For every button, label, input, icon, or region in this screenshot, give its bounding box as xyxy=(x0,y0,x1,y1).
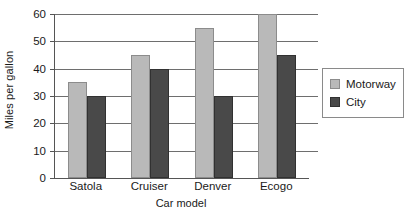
x-axis-tick-label: Cruiser xyxy=(131,180,168,192)
bar-city-satola xyxy=(87,96,106,178)
y-axis-tick-labels: 0102030405060 xyxy=(18,0,50,192)
bar-motorway-denver xyxy=(195,28,214,178)
y-axis-tick-label: 0 xyxy=(40,172,46,184)
x-axis-title: Car model xyxy=(54,197,308,209)
bar-city-cruiser xyxy=(150,69,169,178)
y-axis-tick-label: 40 xyxy=(33,63,46,75)
y-axis-tick-label: 20 xyxy=(33,117,46,129)
plot-area xyxy=(54,14,309,179)
legend-label: Motorway xyxy=(346,78,396,90)
x-axis-tick-label: Satola xyxy=(69,180,102,192)
y-axis-tick-label: 60 xyxy=(33,8,46,20)
bar-group-container xyxy=(55,14,309,178)
right-edge-tick-mark xyxy=(309,69,318,70)
chart-legend: MotorwayCity xyxy=(322,68,404,118)
y-axis-title-text: Miles per gallon xyxy=(3,51,15,130)
x-axis-tick-labels: SatolaCruiserDenverEcogo xyxy=(54,180,308,196)
bar-motorway-satola xyxy=(68,82,87,178)
right-edge-tick-mark xyxy=(309,41,318,42)
y-axis-tick-label: 50 xyxy=(33,35,46,47)
right-edge-tick-mark xyxy=(309,14,318,15)
legend-swatch-city xyxy=(330,97,340,107)
x-axis-tick-label: Denver xyxy=(194,180,231,192)
y-axis-tick-label: 30 xyxy=(33,90,46,102)
bar-city-ecogo xyxy=(277,55,296,178)
x-axis-tick-label: Ecogo xyxy=(260,180,293,192)
legend-label: City xyxy=(346,96,366,108)
right-edge-tick-mark xyxy=(309,96,318,97)
y-axis-tick-mark xyxy=(50,178,55,179)
y-axis-tick-label: 10 xyxy=(33,145,46,157)
legend-item-motorway: Motorway xyxy=(330,75,397,93)
right-edge-tick-mark xyxy=(309,123,318,124)
bar-motorway-ecogo xyxy=(258,14,277,178)
bar-city-denver xyxy=(214,96,233,178)
legend-swatch-motorway xyxy=(330,79,340,89)
bar-motorway-cruiser xyxy=(131,55,150,178)
legend-item-city: City xyxy=(330,93,397,111)
y-axis-title: Miles per gallon xyxy=(0,0,18,180)
bar-chart-figure: Miles per gallon 0102030405060 SatolaCru… xyxy=(0,0,409,215)
right-edge-tick-mark xyxy=(309,151,318,152)
